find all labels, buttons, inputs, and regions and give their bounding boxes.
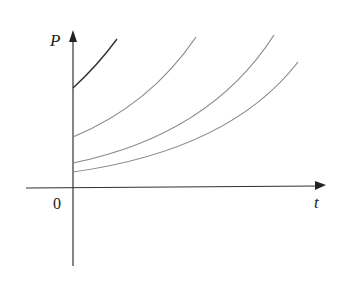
origin-label: 0 [53,195,61,212]
x-axis [26,186,318,188]
y-axis-arrow-icon [69,30,77,42]
curve-2 [73,37,196,137]
curve-1 [73,39,117,88]
y-axis-label: P [49,31,60,50]
growth-curves-diagram: P t 0 [0,0,346,285]
curve-3 [73,35,274,163]
x-axis-label: t [314,193,320,212]
curve-4 [73,62,298,172]
x-axis-arrow-icon [315,181,326,190]
